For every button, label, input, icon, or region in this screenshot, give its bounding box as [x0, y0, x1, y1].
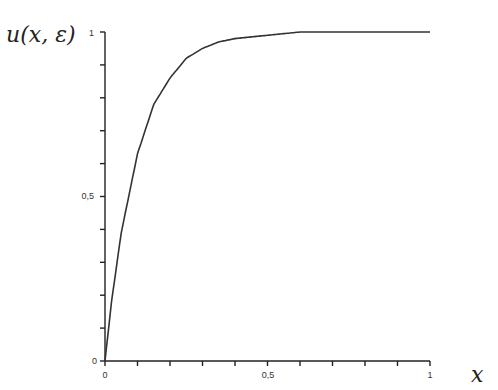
axes [100, 32, 430, 366]
chart-plot: 1 0,5 0 0 0,5 1 [0, 0, 498, 390]
y-tick-label-half: 0,5 [81, 191, 94, 201]
x-tick-label-half: 0,5 [262, 370, 275, 380]
y-tick-label-0: 0 [92, 356, 97, 366]
y-tick-label-1: 1 [89, 28, 94, 38]
x-tick-label-0: 0 [102, 370, 107, 380]
x-tick-label-1: 1 [427, 370, 432, 380]
data-curve [105, 32, 430, 361]
tick-labels: 1 0,5 0 0 0,5 1 [81, 28, 432, 380]
